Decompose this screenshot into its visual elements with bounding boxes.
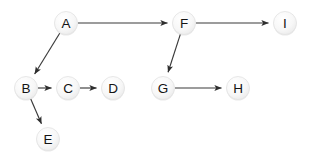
node-label-e: E bbox=[43, 132, 52, 147]
graph-svg: ABCDEFGHI bbox=[0, 0, 310, 163]
node-label-d: D bbox=[108, 81, 118, 96]
node-label-f: F bbox=[180, 16, 188, 31]
node-d[interactable]: D bbox=[102, 77, 125, 101]
nodes-layer: ABCDEFGHI bbox=[15, 12, 297, 152]
node-i[interactable]: I bbox=[274, 12, 297, 36]
node-label-i: I bbox=[283, 16, 287, 31]
edge-a-to-b bbox=[35, 33, 60, 74]
node-label-c: C bbox=[63, 81, 73, 96]
node-h[interactable]: H bbox=[227, 77, 250, 101]
node-label-b: B bbox=[21, 81, 30, 96]
node-e[interactable]: E bbox=[37, 128, 60, 152]
node-label-h: H bbox=[233, 81, 243, 96]
node-c[interactable]: C bbox=[57, 77, 80, 101]
edge-b-to-e bbox=[31, 99, 42, 124]
node-a[interactable]: A bbox=[55, 12, 78, 36]
edge-f-to-g bbox=[168, 34, 180, 72]
graph-canvas: ABCDEFGHI bbox=[0, 0, 310, 163]
edges-layer bbox=[31, 23, 269, 124]
node-f[interactable]: F bbox=[173, 12, 196, 36]
node-label-g: G bbox=[158, 81, 169, 96]
node-b[interactable]: B bbox=[15, 77, 38, 101]
node-label-a: A bbox=[61, 16, 70, 31]
node-g[interactable]: G bbox=[152, 77, 175, 101]
